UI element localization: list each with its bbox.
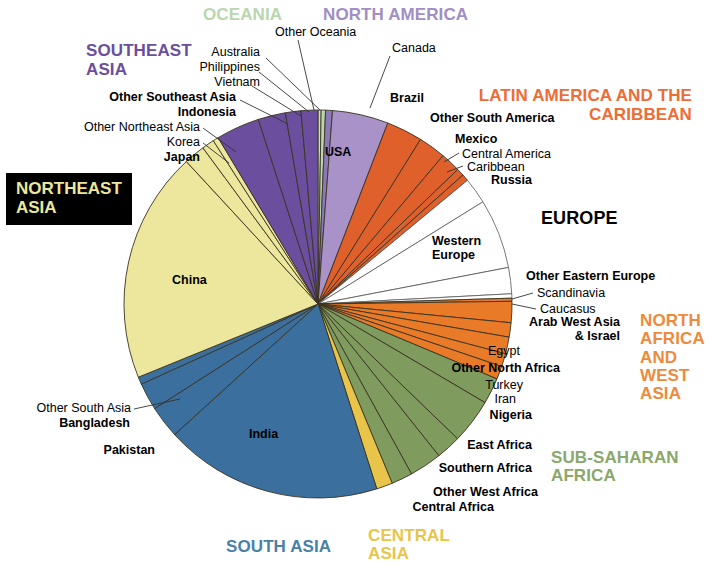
slice-label-egypt: Egypt xyxy=(440,345,520,359)
slice-label-india: India xyxy=(249,428,278,442)
slice-label-russia: Russia xyxy=(491,174,532,188)
slice-label-other-northeast-asia: Other Northeast Asia xyxy=(40,121,200,135)
region-label-europe: EUROPE xyxy=(541,209,618,228)
slice-label-other-oceania: Other Oceania xyxy=(275,26,356,40)
slice-label-arab-west-asia: Arab West Asia & Israel xyxy=(529,316,620,343)
slice-label-other-eastern-europe: Other Eastern Europe xyxy=(526,270,655,284)
region-label-ssa-line2: AFRICA xyxy=(551,467,679,485)
region-label-central-asia: CENTRAL ASIA xyxy=(368,527,450,564)
slice-label-iran: Iran xyxy=(440,393,516,407)
region-label-nawa-line3: AND xyxy=(640,349,705,367)
slice-label-other-south-asia: Other South Asia xyxy=(0,402,131,416)
slice-label-indonesia: Indonesia xyxy=(96,106,236,120)
slice-label-japan: Japan xyxy=(90,151,200,165)
slice-label-arab-west-asia-line2: & Israel xyxy=(529,330,620,344)
slice-label-other-south-america: Other South America xyxy=(430,112,555,126)
slice-label-western-europe-line1: Western xyxy=(432,235,481,249)
slice-label-nigeria: Nigeria xyxy=(400,409,532,423)
slice-label-east-africa: East Africa xyxy=(380,439,532,453)
leader-scandinavia xyxy=(512,293,533,299)
pie-chart-figure: OCEANIA NORTH AMERICA SOUTHEAST ASIA LAT… xyxy=(0,0,708,570)
region-label-south-asia: SOUTH ASIA xyxy=(226,538,331,556)
slice-label-mexico: Mexico xyxy=(455,133,497,147)
region-label-nawa-line2: AFRICA xyxy=(640,330,705,348)
region-label-north-america: NORTH AMERICA xyxy=(323,6,468,24)
slice-label-canada: Canada xyxy=(392,42,436,56)
slice-label-other-southeast-asia: Other Southeast Asia xyxy=(76,91,236,105)
slice-label-brazil: Brazil xyxy=(390,92,424,106)
slice-label-other-north-africa: Other North Africa xyxy=(400,362,560,376)
region-label-northeast-asia: NORTHEAST ASIA xyxy=(6,173,132,225)
region-label-nawa-line4: WEST xyxy=(640,367,705,385)
leader-canada xyxy=(370,56,390,108)
slice-label-western-europe-line2: Europe xyxy=(432,249,481,263)
slice-label-other-west-africa: Other West Africa xyxy=(340,486,538,500)
slice-label-vietnam: Vietnam xyxy=(150,76,260,90)
slice-label-arab-west-asia-line1: Arab West Asia xyxy=(529,316,620,330)
slice-label-philippines: Philippines xyxy=(150,61,260,75)
slice-label-southern-africa: Southern Africa xyxy=(360,462,532,476)
slice-label-china: China xyxy=(172,274,207,288)
region-label-latin-america-line1: LATIN AMERICA AND THE xyxy=(466,86,692,105)
leader-caucasus xyxy=(512,304,536,309)
region-label-central-asia-line2: ASIA xyxy=(368,545,450,563)
slice-label-usa: USA xyxy=(325,146,351,160)
slice-label-scandinavia: Scandinavia xyxy=(537,287,605,301)
leader-other-oceania xyxy=(298,40,314,110)
region-label-nawa-line5: ASIA xyxy=(640,385,705,403)
region-label-oceania: OCEANIA xyxy=(203,6,282,24)
region-label-north-africa-west-asia: NORTH AFRICA AND WEST ASIA xyxy=(640,312,705,404)
region-label-sub-saharan-africa: SUB-SAHARAN AFRICA xyxy=(551,449,679,486)
slice-label-australia: Australia xyxy=(150,46,260,60)
leader-vietnam xyxy=(252,86,301,116)
leader-central-america xyxy=(444,153,459,162)
region-label-northeast-asia-line2: ASIA xyxy=(16,199,122,218)
slice-label-western-europe: Western Europe xyxy=(432,235,481,262)
slice-label-bangladesh: Bangladesh xyxy=(10,417,130,431)
slice-label-pakistan: Pakistan xyxy=(40,444,155,458)
region-label-central-asia-line1: CENTRAL xyxy=(368,527,450,545)
region-label-nawa-line1: NORTH xyxy=(640,312,705,330)
slice-label-korea: Korea xyxy=(90,136,200,150)
slice-label-central-africa: Central Africa xyxy=(330,501,494,515)
slice-label-turkey: Turkey xyxy=(440,379,523,393)
region-label-ssa-line1: SUB-SAHARAN xyxy=(551,449,679,467)
region-label-northeast-asia-line1: NORTHEAST xyxy=(16,180,122,199)
